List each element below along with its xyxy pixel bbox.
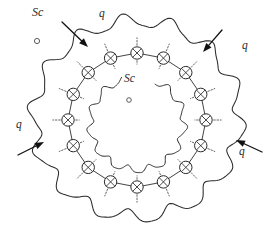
sc-center-label: Sc: [124, 73, 135, 85]
ring-tick-1: [166, 44, 169, 51]
ring-tick-14: [77, 62, 82, 67]
ring-tick-inner-15: [114, 65, 115, 68]
ring-tick-inner-5: [190, 141, 193, 142]
ring-tick-inner-3: [190, 97, 193, 98]
inner-wavy-contour: [87, 77, 188, 172]
ring-tick-5: [208, 149, 215, 152]
crossed-circle-node-1: [157, 52, 169, 64]
q-label-top-right: q: [242, 40, 248, 52]
crossed-circle-node-3: [195, 88, 207, 100]
diagram-drawing: [0, 0, 274, 231]
q-label-left: q: [16, 119, 22, 131]
ring-nodes: [62, 47, 212, 193]
arrow-shaft: [209, 30, 222, 45]
crossed-circle-node-6: [180, 161, 192, 173]
ring-radial-ticks: [53, 38, 221, 202]
ring-tick-6: [191, 173, 196, 178]
crossed-circle-node-0: [131, 47, 143, 59]
arrow-shaft: [62, 22, 82, 41]
crossed-circle-node-14: [82, 66, 94, 78]
ring-tick-inner-1: [159, 65, 160, 68]
ring-tick-inner-14: [94, 78, 96, 80]
sc-legend-label: Sc: [32, 6, 43, 18]
crossed-circle-node-10: [82, 161, 94, 173]
ring-tick-inner-10: [94, 159, 96, 161]
q-arrow-left: [18, 142, 44, 155]
ring-tick-inner-9: [114, 172, 115, 175]
ring-tick-11: [59, 149, 66, 152]
crossed-circle-node-8: [131, 181, 143, 193]
arrow-head-icon: [34, 142, 44, 149]
inner-contour-path: [87, 77, 188, 172]
ring-tick-9: [105, 189, 108, 196]
ring-tick-13: [59, 89, 66, 92]
crossed-circle-node-13: [67, 88, 79, 100]
ring-tick-7: [166, 189, 169, 196]
crossed-circle-node-2: [180, 66, 192, 78]
crossed-circle-node-5: [195, 139, 207, 151]
ring-tick-3: [208, 89, 215, 92]
crossed-circle-node-12: [62, 114, 74, 126]
ring-tick-inner-13: [80, 97, 83, 98]
load-arrows: [18, 22, 262, 155]
crossed-circle-node-9: [104, 176, 116, 188]
figure-canvas: Sc Sc q q q q: [0, 0, 274, 231]
sc-center-marker-icon: [127, 98, 132, 103]
q-arrow-top: [62, 22, 88, 47]
ring-tick-inner-11: [80, 141, 83, 142]
ring-tick-10: [77, 173, 82, 178]
arrow-shaft: [244, 144, 262, 152]
ring-tick-inner-2: [178, 78, 180, 80]
ring-tick-2: [191, 62, 196, 67]
q-label-top: q: [99, 8, 105, 20]
q-label-right-bottom: q: [239, 146, 245, 158]
crossed-circle-node-11: [67, 139, 79, 151]
node-ring: [53, 38, 221, 202]
crossed-circle-node-4: [200, 114, 212, 126]
ring-tick-15: [105, 44, 108, 51]
ring-tick-inner-6: [178, 159, 180, 161]
ring-tick-inner-7: [159, 172, 160, 175]
crossed-circle-node-7: [157, 176, 169, 188]
sc-legend-marker-icon: [34, 38, 39, 43]
crossed-circle-node-15: [104, 52, 116, 64]
